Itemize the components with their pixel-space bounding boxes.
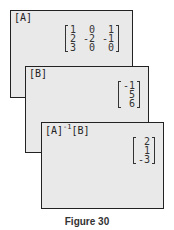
right-bracket [116,25,119,52]
figure-caption: Figure 30 [0,216,174,227]
matrix-cell: -3 [138,155,150,164]
title-a: [A] [45,125,63,136]
right-bracket [137,81,140,108]
screen-title: [A]-1[B] [45,124,90,136]
matrix-cell: 0 [83,43,95,52]
screen-title: [A] [14,12,32,23]
inverse-exponent: -1 [63,123,71,131]
screen-title: [B] [29,68,47,79]
matrix-cell: 3 [70,43,76,52]
matrix-cell: 6 [123,99,135,108]
matrix-a: 1 0 1 2 -2 -1 3 0 0 [65,25,119,52]
calculator-screen-result: [A]-1[B] 2 1 -3 [41,122,164,209]
matrix-b: -1 5 6 [118,81,140,108]
right-bracket [152,137,155,164]
title-b: [B] [72,125,90,136]
matrix-cell: 0 [102,43,114,52]
result-matrix: 2 1 -3 [133,137,155,164]
